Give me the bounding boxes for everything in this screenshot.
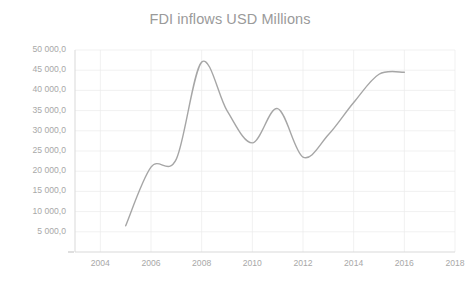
x-axis-tick-label: 2014 [334, 258, 374, 268]
x-axis-tick-label: 2010 [232, 258, 272, 268]
x-axis-tick-label: 2008 [182, 258, 222, 268]
x-axis-tick-label: 2006 [131, 258, 171, 268]
x-axis-tick-label: 2016 [384, 258, 424, 268]
x-axis-tick-label: 2012 [283, 258, 323, 268]
x-axis-tick-label: 2018 [435, 258, 469, 268]
x-axis-tick-label: 2004 [80, 258, 120, 268]
